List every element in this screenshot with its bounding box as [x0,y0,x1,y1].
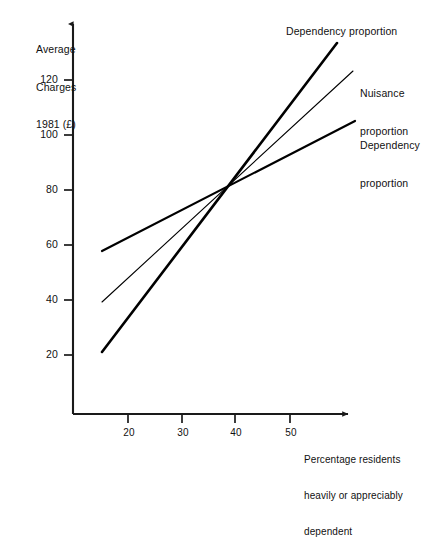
y-axis-label-line-1: Average [36,43,76,56]
series-line-dependency-steep [102,43,337,352]
y-tick-label-100: 100 [28,128,58,141]
y-tick-label-40: 40 [28,293,58,306]
y-tick-label-60: 60 [28,238,58,251]
y-tick-label-120: 120 [28,73,58,86]
x-tick-label-20: 20 [120,427,138,440]
series-label-nuisance-line-1: Nuisance [360,87,408,100]
series-label-dependency-shallow: Dependency proportion [360,114,420,214]
series-line-dependency-shallow [102,121,355,251]
y-tick-label-20: 20 [28,348,58,361]
x-axis-label-line-2: heavily or appreciably [304,490,403,502]
x-tick-label-40: 40 [227,427,245,440]
x-axis-label-line-1: Percentage residents [304,454,403,466]
x-axis-label: Percentage residents heavily or apprecia… [304,430,403,541]
x-tick-label-50: 50 [282,427,300,440]
x-tick-label-30: 30 [174,427,192,440]
x-axis [73,414,348,423]
data-series-group [102,43,355,352]
y-tick-label-80: 80 [28,183,58,196]
series-label-dependency-shallow-line-2: proportion [360,177,420,190]
series-label-dependency-steep: Dependency proportion [286,25,397,38]
series-label-dependency-shallow-line-1: Dependency [360,139,420,152]
x-axis-label-line-3: dependent [304,526,403,538]
